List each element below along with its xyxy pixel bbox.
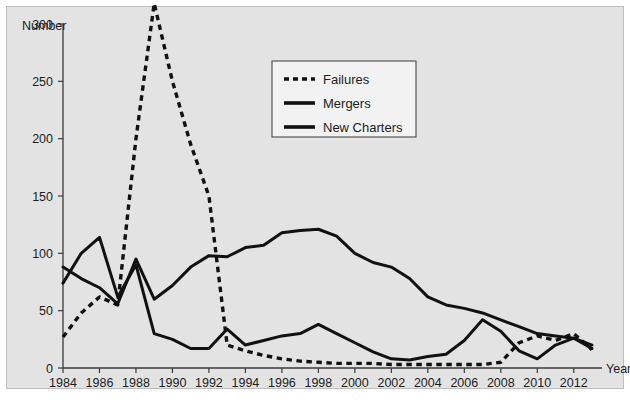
series-failures bbox=[63, 3, 592, 364]
line-chart: 050100150200250300 198419861988199019921… bbox=[0, 0, 630, 417]
x-tick-label: 1994 bbox=[232, 376, 260, 390]
legend-label-new-charters: New Charters bbox=[323, 120, 403, 135]
y-tick-label: 100 bbox=[32, 247, 53, 261]
legend-label-failures: Failures bbox=[323, 72, 370, 87]
x-tick-label: 1986 bbox=[86, 376, 114, 390]
x-tick-label: 2006 bbox=[450, 376, 478, 390]
legend-label-mergers: Mergers bbox=[323, 96, 371, 111]
x-tick-label: 2012 bbox=[560, 376, 588, 390]
y-axis-title: Number bbox=[22, 19, 66, 33]
x-tick-label: 2008 bbox=[487, 376, 515, 390]
y-axis: 050100150200250300 bbox=[32, 18, 63, 376]
x-axis: 1984198619881990199219941996199820002002… bbox=[49, 368, 602, 390]
chart-legend: FailuresMergersNew Charters bbox=[272, 61, 416, 137]
x-tick-label: 1990 bbox=[159, 376, 187, 390]
caption-strip bbox=[0, 392, 630, 417]
y-tick-label: 200 bbox=[32, 132, 53, 146]
x-tick-label: 2010 bbox=[523, 376, 551, 390]
y-tick-label: 0 bbox=[46, 362, 53, 376]
x-tick-label: 2000 bbox=[341, 376, 369, 390]
screenshot-root: 050100150200250300 198419861988199019921… bbox=[0, 0, 630, 417]
y-tick-label: 50 bbox=[39, 304, 53, 318]
x-tick-label: 1984 bbox=[49, 376, 77, 390]
chart-series-group bbox=[63, 3, 592, 364]
x-tick-label: 1992 bbox=[195, 376, 223, 390]
y-tick-label: 150 bbox=[32, 190, 53, 204]
x-tick-label: 1996 bbox=[268, 376, 296, 390]
y-tick-label: 250 bbox=[32, 75, 53, 89]
x-axis-title: Year bbox=[606, 362, 630, 376]
x-tick-label: 2002 bbox=[377, 376, 405, 390]
x-tick-label: 1988 bbox=[122, 376, 150, 390]
x-tick-label: 1998 bbox=[304, 376, 332, 390]
x-tick-label: 2004 bbox=[414, 376, 442, 390]
series-new-charters bbox=[63, 237, 592, 360]
